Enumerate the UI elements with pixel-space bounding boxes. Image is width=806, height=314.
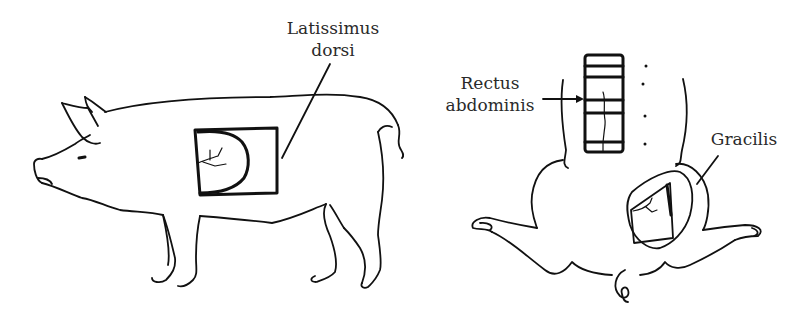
latissimus-dorsi-pointer bbox=[282, 64, 330, 158]
gracilis-flap bbox=[627, 171, 692, 248]
pig-drawings bbox=[0, 0, 806, 314]
midline-dots bbox=[642, 65, 648, 146]
label-latissimus-dorsi: Latissimus dorsi bbox=[283, 17, 383, 61]
label-gracilis-line1: Gracilis bbox=[704, 128, 784, 150]
label-latissimus-line1: Latissimus bbox=[283, 17, 383, 39]
rectus-abdominis-pointer bbox=[543, 95, 584, 103]
label-latissimus-line2: dorsi bbox=[283, 39, 383, 61]
label-rectus-line2: abdominis bbox=[440, 94, 540, 116]
gracilis-pointer bbox=[697, 156, 718, 184]
latissimus-dorsi-flap bbox=[195, 128, 277, 195]
rectus-abdominis-flap bbox=[585, 55, 623, 152]
label-rectus-line1: Rectus bbox=[440, 72, 540, 94]
anatomy-figure: Latissimus dorsi Rectus abdominis Gracil… bbox=[0, 0, 806, 314]
label-gracilis: Gracilis bbox=[704, 128, 784, 150]
label-rectus-abdominis: Rectus abdominis bbox=[440, 72, 540, 116]
